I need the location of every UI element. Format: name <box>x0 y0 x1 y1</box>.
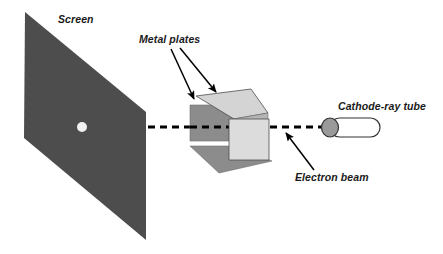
metal-plates-arrow-right <box>180 48 216 92</box>
metal-plates-label: Metal plates <box>139 33 200 45</box>
screen-label: Screen <box>58 13 94 25</box>
metal-plates-arrow-left <box>171 49 194 99</box>
cathode-ray-tube-group <box>322 118 381 137</box>
lower-plate-front-face <box>229 119 269 160</box>
cathode-ray-tube-cap <box>322 118 339 137</box>
metal-plates-assembly <box>190 89 272 173</box>
diagram-canvas: Screen Metal plates Cathode-ray tube Ele… <box>0 0 443 254</box>
electron-beam-label: Electron beam <box>295 171 369 183</box>
cathode-ray-tube-label: Cathode-ray tube <box>338 100 426 112</box>
electron-beam-arrow <box>286 133 314 170</box>
screen-group <box>24 12 146 240</box>
cathode-ray-tube-diagram: Screen Metal plates Cathode-ray tube Ele… <box>0 0 443 254</box>
screen-spot <box>77 122 87 132</box>
